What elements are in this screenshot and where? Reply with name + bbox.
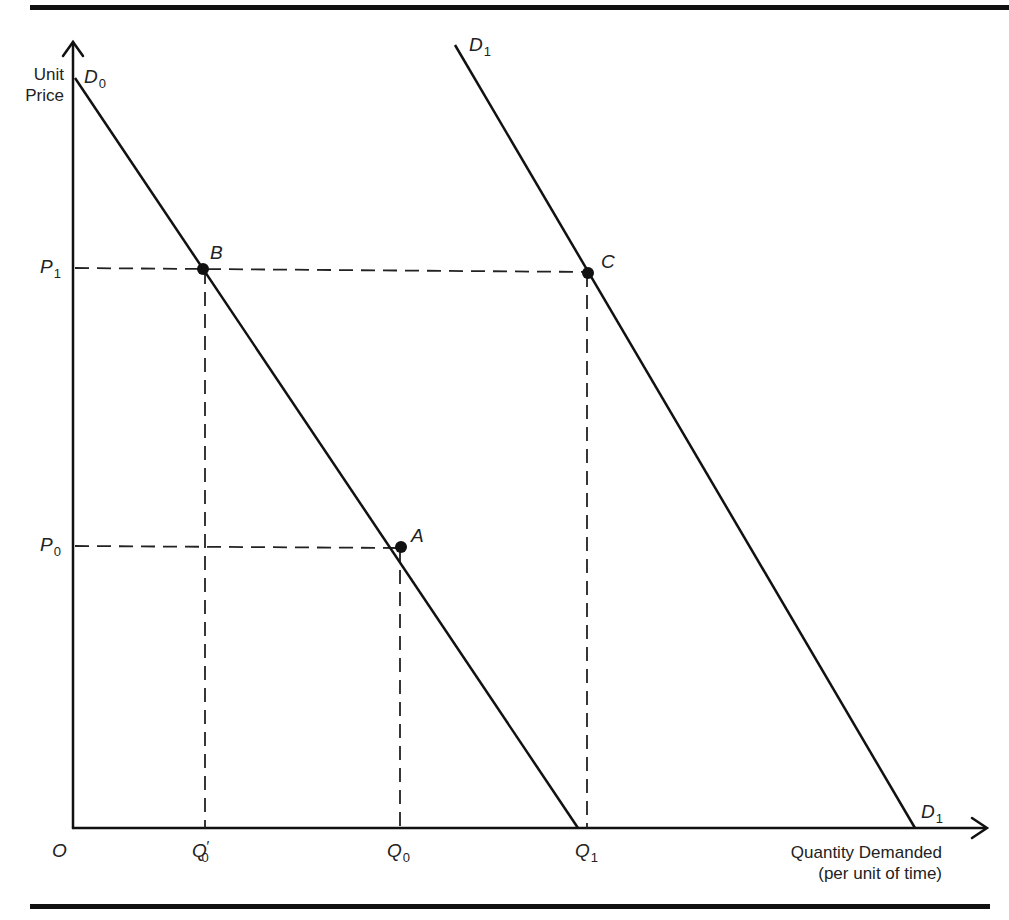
axes <box>63 42 987 838</box>
label-point-c: C <box>601 251 615 273</box>
point-c-marker <box>582 267 594 279</box>
demand-chart <box>0 0 1009 920</box>
points <box>197 263 594 553</box>
label-d1-top-sub: 1 <box>484 44 491 59</box>
point-a-marker <box>395 541 407 553</box>
tick-p0: P0 <box>40 534 61 556</box>
label-d1-bottom-sub: 1 <box>936 811 943 826</box>
label-d0-sub: 0 <box>99 76 106 91</box>
label-point-a: A <box>411 525 424 547</box>
tick-p1-main: P <box>40 256 53 277</box>
point-b-marker <box>197 263 209 275</box>
tick-p0-main: P <box>40 534 53 555</box>
label-d0: D0 <box>84 66 106 88</box>
x-axis-title-line2: (per unit of time) <box>750 863 942 884</box>
tick-p1: P1 <box>40 256 61 278</box>
tick-q0prime: Q′0 <box>192 840 209 862</box>
x-axis-title-line1: Quantity Demanded <box>750 842 942 863</box>
p0-guide <box>75 546 400 548</box>
p1-guide <box>75 268 588 272</box>
tick-q0-sub: 0 <box>403 850 410 865</box>
curve-d1 <box>455 45 915 828</box>
label-d1-bottom: D1 <box>921 801 943 823</box>
y-axis-title-line1: Unit <box>22 64 64 85</box>
tick-q0: Q0 <box>387 840 410 862</box>
origin-label: O <box>52 840 67 862</box>
label-d1-bottom-main: D <box>921 801 935 822</box>
guide-lines <box>75 268 588 828</box>
curve-d0 <box>75 78 578 828</box>
tick-q1-main: Q <box>575 840 590 861</box>
tick-p1-sub: 1 <box>54 266 61 281</box>
tick-q1-sub: 1 <box>591 850 598 865</box>
tick-q1: Q1 <box>575 840 598 862</box>
tick-p0-sub: 0 <box>54 544 61 559</box>
label-d0-main: D <box>84 66 98 87</box>
label-d1-top-main: D <box>469 34 483 55</box>
x-axis-title: Quantity Demanded (per unit of time) <box>750 842 942 884</box>
curves <box>75 45 915 828</box>
label-point-b: B <box>210 242 223 264</box>
label-d1-top: D1 <box>469 34 491 56</box>
tick-q0-main: Q <box>387 840 402 861</box>
y-axis-title-line2: Price <box>22 85 64 106</box>
tick-q0prime-sub: 0 <box>202 850 209 865</box>
y-axis-title: Unit Price <box>22 64 64 106</box>
